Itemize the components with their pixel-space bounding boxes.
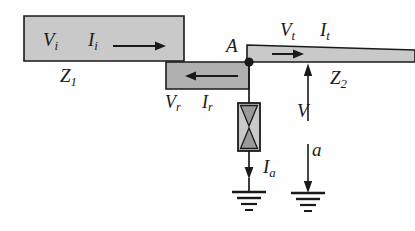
label-incident-current: Ii [88,30,98,49]
figure-canvas: Vi Ii Z1 Vr Ir A Vt It Z2 V Ia a [0,0,415,231]
label-reflected-current: Ir [202,93,213,111]
arrester-current-arrow [245,151,254,179]
label-node-a: A [226,36,238,55]
reference-branch-arrow [304,144,312,193]
label-incident-voltage: Vi [43,30,58,49]
label-impedance-1: Z1 [60,66,77,85]
label-node-voltage: V [297,101,309,120]
label-transmitted-voltage: Vt [280,20,295,39]
label-arrester-current: Ia [263,157,276,176]
label-reference-branch: a [312,140,322,159]
label-transmitted-current: It [320,20,330,39]
ground-symbol-arrester [232,192,266,210]
circuit-diagram [0,0,415,231]
label-impedance-2: Z2 [330,68,347,87]
label-reflected-voltage: Vr [165,93,181,111]
surge-arrester-symbol [238,103,260,151]
ground-symbol-reference [291,193,325,211]
